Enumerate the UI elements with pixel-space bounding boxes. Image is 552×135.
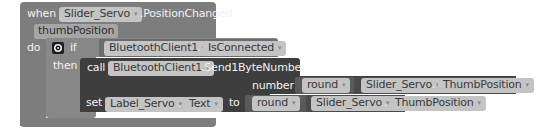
gear-icon[interactable]	[52, 42, 64, 54]
call-method-name: .Send1ByteNumber	[201, 61, 305, 75]
set-keyword: set	[86, 96, 102, 110]
chevron-down-icon: ▾	[292, 99, 295, 107]
condition-component-dropdown[interactable]: BluetoothClient1▾	[104, 41, 210, 56]
getter-dot: .	[432, 78, 435, 92]
chevron-down-icon: ▾	[278, 44, 281, 52]
condition-property-dropdown[interactable]: IsConnected▾	[203, 41, 286, 56]
event-name: .PositionChanged	[140, 7, 232, 21]
set-dot: .	[178, 97, 181, 111]
chevron-down-icon: ▾	[342, 81, 345, 89]
number-arg-label: number	[252, 79, 294, 93]
chevron-down-icon: ▾	[526, 81, 529, 89]
gear-icon-glyph	[52, 42, 64, 54]
call-keyword: call	[87, 61, 105, 75]
do-keyword: do	[27, 41, 40, 55]
set-component-dropdown[interactable]: Label_Servo▾	[105, 97, 187, 112]
getter-property-dropdown[interactable]: ThumbPosition▾	[438, 78, 534, 93]
round-function-dropdown-set[interactable]: round▾	[252, 96, 300, 111]
getter-property-dropdown-set[interactable]: ThumbPosition▾	[390, 96, 486, 111]
chevron-down-icon: ▾	[214, 100, 217, 108]
condition-dot: .	[197, 41, 200, 55]
round-function-dropdown[interactable]: round▾	[302, 78, 350, 93]
then-keyword: then	[53, 59, 77, 73]
event-block-bottom	[20, 118, 216, 127]
event-component-dropdown[interactable]: Slider_Servo▾	[59, 7, 142, 22]
chevron-down-icon: ▾	[478, 99, 481, 107]
getter-dot-set: .	[384, 96, 387, 110]
getter-component-dropdown-set[interactable]: Slider_Servo▾	[311, 96, 394, 111]
param-thumbposition[interactable]: thumbPosition	[34, 24, 118, 39]
chevron-down-icon: ▾	[134, 10, 137, 18]
set-property-dropdown[interactable]: Text▾	[184, 97, 223, 112]
if-keyword: if	[70, 41, 77, 55]
to-keyword: to	[229, 96, 240, 110]
call-component-dropdown[interactable]: BluetoothClient1▾	[108, 61, 214, 76]
when-keyword: when	[27, 7, 56, 21]
